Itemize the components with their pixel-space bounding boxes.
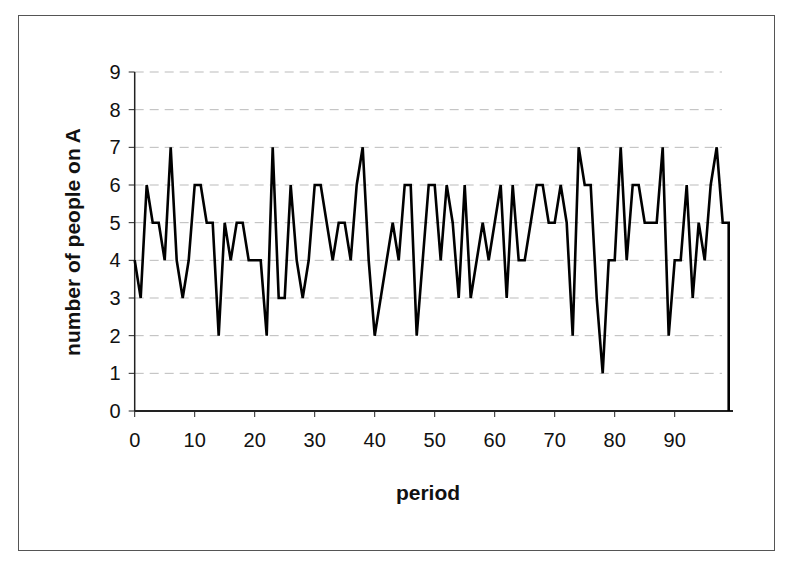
y-tick-label: 8 xyxy=(110,99,121,121)
axes xyxy=(129,72,733,417)
x-axis-title: period xyxy=(396,481,460,504)
y-tick-label: 9 xyxy=(110,61,121,83)
y-tick-label: 6 xyxy=(110,174,121,196)
data-series-line xyxy=(135,147,729,411)
y-tick-label: 4 xyxy=(110,249,121,271)
y-tick-label: 2 xyxy=(110,325,121,347)
y-axis-title: number of people on A xyxy=(61,128,84,356)
x-tick-label: 70 xyxy=(544,429,566,451)
x-axis-tick-labels: 0102030405060708090 xyxy=(129,429,686,451)
x-tick-label: 10 xyxy=(184,429,206,451)
x-tick-label: 30 xyxy=(304,429,326,451)
y-tick-label: 7 xyxy=(110,136,121,158)
y-tick-label: 0 xyxy=(110,400,121,422)
y-tick-label: 5 xyxy=(110,212,121,234)
x-tick-label: 60 xyxy=(484,429,506,451)
x-tick-label: 40 xyxy=(364,429,386,451)
x-tick-label: 20 xyxy=(244,429,266,451)
line-chart: 0123456789 0102030405060708090 period nu… xyxy=(0,0,795,571)
gridlines xyxy=(135,72,722,373)
x-tick-label: 80 xyxy=(604,429,626,451)
y-tick-label: 3 xyxy=(110,287,121,309)
x-tick-label: 50 xyxy=(424,429,446,451)
y-tick-label: 1 xyxy=(110,362,121,384)
x-tick-label: 0 xyxy=(129,429,140,451)
x-tick-label: 90 xyxy=(664,429,686,451)
y-axis-tick-labels: 0123456789 xyxy=(110,61,121,422)
